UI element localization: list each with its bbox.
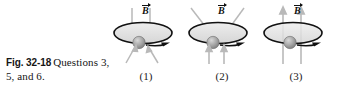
field-arrowhead-left — [280, 7, 286, 14]
figure-number-label: Fig. 32-18 — [6, 57, 51, 68]
b-field-label-2: B — [218, 3, 227, 16]
figure-caption: Fig. 32-18Questions 3, 5, and 6. — [6, 56, 110, 83]
field-arrowhead-left — [133, 45, 138, 52]
b-field-label-1: B — [142, 3, 151, 16]
vector-arrow-icon — [218, 3, 227, 7]
panel-number-2: (2) — [182, 70, 262, 82]
diagram-panel-3: B (3) — [256, 0, 336, 94]
panel-number-3: (3) — [256, 70, 336, 82]
field-arrowhead-right — [147, 46, 152, 53]
figure-32-18: Fig. 32-18Questions 3, 5, and 6. — [0, 0, 338, 94]
b-field-label-3: B — [294, 3, 303, 16]
vector-arrow-icon — [294, 3, 303, 7]
diagram-panel-1: B (1) — [106, 0, 186, 94]
diagram-panel-2: B (2) — [182, 0, 262, 94]
panel-number-1: (1) — [106, 70, 186, 82]
vector-arrow-icon — [142, 3, 151, 7]
bead — [284, 36, 296, 48]
